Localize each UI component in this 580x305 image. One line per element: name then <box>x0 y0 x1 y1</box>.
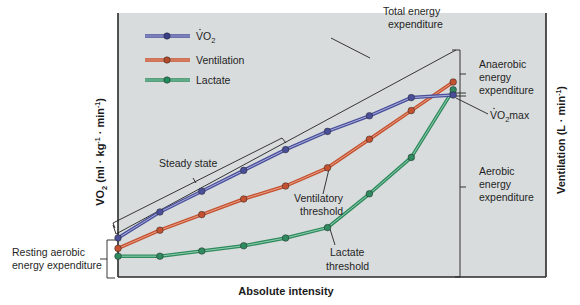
vo2-data-point <box>408 94 415 101</box>
aerobic-label-1: Aerobic <box>479 165 515 177</box>
y-axis-left-label: VO2 (ml · kg-1 · min-1) <box>94 98 109 206</box>
energy-expenditure-chart: VO2 Ventilation Lactate Total energy exp… <box>0 0 580 305</box>
legend-label-lactate: Lactate <box>196 74 231 86</box>
ventilation-data-point <box>366 136 373 143</box>
anaerobic-label-1: Anaerobic <box>479 58 526 70</box>
resting-label-1: Resting aerobic <box>12 246 85 258</box>
y-axis-right-label: Ventilation (L · min-1) <box>555 86 567 194</box>
aerobic-label-3: expenditure <box>479 191 534 203</box>
ventilation-data-point <box>115 245 122 252</box>
lactate-threshold-label-2: threshold <box>326 260 369 272</box>
vo2max-dot <box>493 108 494 109</box>
total-energy-label-2: expenditure <box>388 18 443 30</box>
vo2-data-point <box>199 188 206 195</box>
ventilation-data-point <box>240 196 247 203</box>
vo2-data-point <box>324 128 331 135</box>
ventilation-data-point <box>157 227 164 234</box>
vo2-data-point <box>366 113 373 120</box>
svg-text:VO2 (ml · kg-1 · min-1): VO2 (ml · kg-1 · min-1) <box>94 98 109 206</box>
lactate-data-point <box>408 154 415 161</box>
legend-label-ventilation: Ventilation <box>196 54 245 66</box>
resting-bracket <box>100 240 115 278</box>
anaerobic-label-3: expenditure <box>479 84 534 96</box>
ventilation-data-point <box>450 79 457 86</box>
lactate-data-point <box>157 253 164 260</box>
ventilation-data-point <box>408 107 415 114</box>
ventilation-data-point <box>199 211 206 218</box>
aerobic-label-2: energy <box>479 178 512 190</box>
anaerobic-label-2: energy <box>479 71 512 83</box>
lactate-data-point <box>199 248 206 255</box>
ventilation-data-point <box>282 183 289 190</box>
total-energy-label-1: Total energy <box>383 5 441 17</box>
ventilatory-label-1: Ventilatory <box>294 192 344 204</box>
ventilation-data-point <box>324 165 331 172</box>
resting-label-2: energy expenditure <box>12 259 102 271</box>
x-axis-label: Absolute intensity <box>238 285 334 297</box>
vo2-data-point <box>115 235 122 242</box>
lactate-data-point <box>324 224 331 231</box>
lactate-threshold-label-1: Lactate <box>330 246 365 258</box>
plot-area <box>118 13 546 277</box>
lactate-data-point <box>240 243 247 250</box>
vo2-data-point <box>240 167 247 174</box>
ventilatory-label-2: threshold <box>300 205 343 217</box>
svg-text:Ventilation (L · min-1): Ventilation (L · min-1) <box>555 86 567 194</box>
vo2-data-point <box>157 209 164 216</box>
steady-state-label: Steady state <box>159 157 218 169</box>
lactate-data-point <box>282 235 289 242</box>
vo2-data-point <box>450 92 457 99</box>
lactate-data-point <box>115 253 122 260</box>
vo2-data-point <box>282 146 289 153</box>
lactate-data-point <box>366 191 373 198</box>
